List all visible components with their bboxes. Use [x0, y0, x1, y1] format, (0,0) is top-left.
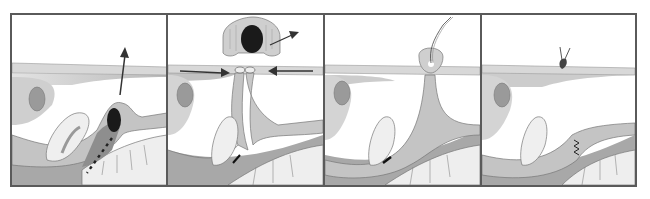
- surface-layer: [325, 65, 480, 75]
- panel-4-illustration: [482, 15, 635, 185]
- lesion: [107, 108, 121, 132]
- panel-1-illustration: [12, 15, 167, 185]
- panel-2: Panel 2: [168, 15, 323, 185]
- organ-oval: [29, 87, 45, 111]
- panel-4: Panel 4: [482, 15, 635, 185]
- surface-layer: [12, 63, 167, 75]
- figure-strip: Panel 1: [10, 13, 637, 187]
- panel-1: Panel 1: [12, 15, 167, 185]
- suture-ends: [560, 47, 570, 60]
- lesion: [241, 25, 263, 53]
- panel-3-illustration: [325, 15, 480, 185]
- organ-oval: [334, 81, 350, 105]
- tube-stump-right: [246, 73, 323, 145]
- organ-oval: [177, 83, 193, 107]
- organ-oval: [494, 83, 510, 107]
- panel-2-illustration: [168, 15, 323, 185]
- panel-3: Panel 3: [325, 15, 480, 185]
